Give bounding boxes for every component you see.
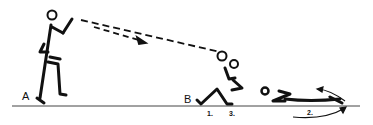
lying-figure	[262, 88, 343, 104]
thrower-figure	[37, 11, 72, 104]
partner-figure	[197, 52, 242, 105]
step-3-label: 3.	[229, 110, 235, 117]
throw-trajectory	[81, 20, 220, 52]
position-a-label: A	[22, 90, 29, 102]
arrow-head-icon	[137, 37, 146, 44]
step-2-label: 2.	[307, 109, 313, 116]
diagram-drawing	[0, 0, 373, 125]
step-1-label: 1.	[207, 110, 213, 117]
diagram-canvas: A B 1. 3. 2.	[0, 0, 373, 125]
position-b-label: B	[184, 93, 191, 105]
